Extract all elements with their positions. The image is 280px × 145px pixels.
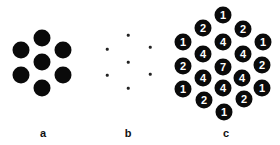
numbered-dot: 7	[215, 59, 232, 76]
numbered-dot: 4	[215, 80, 232, 97]
large-dot	[34, 54, 51, 71]
panel-c-label: c	[223, 127, 229, 139]
tiny-dot	[127, 61, 130, 64]
large-dot	[34, 30, 51, 47]
figure-stage: 1221414427244141221 a b c	[0, 0, 280, 145]
numbered-dot: 2	[254, 57, 271, 74]
numbered-dot: 2	[236, 91, 253, 108]
tiny-dot	[149, 46, 152, 49]
numbered-dot: 1	[175, 34, 192, 51]
numbered-dot: 2	[175, 58, 192, 75]
numbered-dot: 1	[255, 34, 272, 51]
large-dot	[34, 80, 51, 97]
tiny-dot	[127, 87, 130, 90]
large-dot	[55, 42, 72, 59]
large-dot	[13, 67, 30, 84]
numbered-dot: 4	[215, 34, 232, 51]
numbered-dot: 4	[235, 46, 252, 63]
tiny-dot	[106, 74, 109, 77]
tiny-dot	[127, 34, 130, 37]
numbered-dot: 1	[254, 80, 271, 97]
numbered-dot: 4	[195, 70, 212, 87]
tiny-dot	[149, 73, 152, 76]
large-dot	[55, 67, 72, 84]
numbered-dot: 2	[235, 21, 252, 38]
panel-a-label: a	[40, 127, 46, 139]
numbered-dot: 2	[196, 92, 213, 109]
numbered-dot: 4	[234, 70, 251, 87]
tiny-dot	[106, 48, 109, 51]
numbered-dot: 1	[216, 104, 233, 121]
numbered-dot: 1	[175, 81, 192, 98]
numbered-dot: 4	[195, 46, 212, 63]
large-dot	[13, 42, 30, 59]
numbered-dot: 1	[215, 7, 232, 24]
numbered-dot: 2	[195, 20, 212, 37]
panel-b-label: b	[125, 127, 132, 139]
